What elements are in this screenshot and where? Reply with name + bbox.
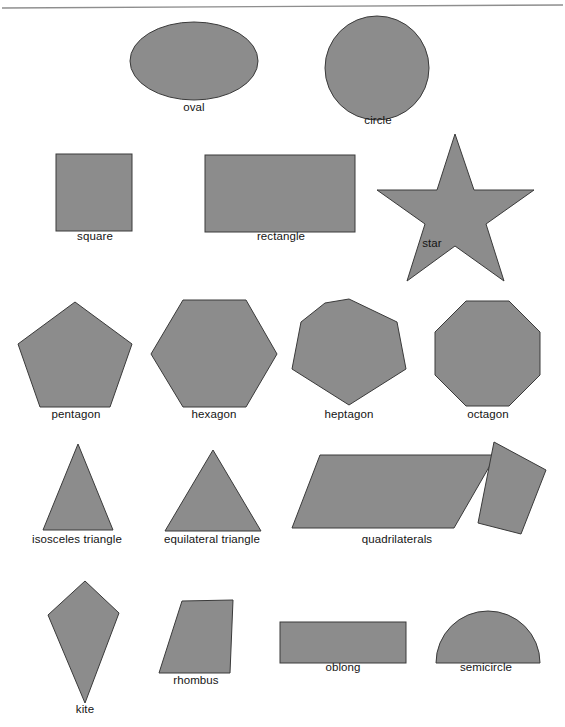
label-oblong: oblong	[325, 661, 360, 674]
pentagon-shape	[18, 302, 132, 407]
isosceles-triangle-shape	[43, 444, 113, 530]
shapes-canvas	[0, 0, 565, 727]
label-semicircle: semicircle	[460, 661, 512, 674]
label-kite: kite	[76, 703, 94, 716]
equilateral-triangle-shape	[165, 450, 261, 531]
label-square: square	[77, 230, 113, 243]
rectangle-shape	[205, 155, 355, 232]
label-circle: circle	[364, 114, 391, 127]
octagon-shape	[435, 301, 540, 406]
rhombus-shape	[159, 600, 233, 673]
label-star: star	[422, 237, 442, 250]
quadrilateral-parallelogram-shape	[292, 455, 496, 528]
label-rectangle: rectangle	[257, 230, 305, 243]
shapes-chart-page: oval circle square rectangle star pentag…	[0, 0, 565, 727]
label-oval: oval	[183, 101, 205, 114]
semicircle-shape	[436, 611, 540, 663]
heptagon-shape	[292, 299, 406, 405]
label-isosceles-triangle: isosceles triangle	[32, 533, 122, 546]
oval-shape	[130, 22, 258, 100]
square-shape	[56, 154, 132, 231]
label-pentagon: pentagon	[52, 408, 101, 421]
circle-shape	[325, 16, 429, 120]
label-equilateral-triangle: equilateral triangle	[164, 533, 260, 546]
label-heptagon: heptagon	[325, 408, 374, 421]
label-octagon: octagon	[467, 408, 509, 421]
oblong-shape	[280, 622, 406, 663]
top-divider-rule	[2, 5, 563, 8]
label-hexagon: hexagon	[192, 408, 237, 421]
kite-shape	[48, 581, 119, 703]
label-quadrilaterals: quadrilaterals	[362, 533, 432, 546]
star-shape	[377, 134, 534, 281]
hexagon-shape	[151, 300, 277, 407]
label-rhombus: rhombus	[173, 674, 218, 687]
